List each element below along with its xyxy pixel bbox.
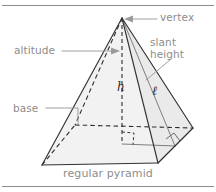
- label-base: base: [13, 103, 38, 115]
- figure-caption: regular pyramid: [0, 168, 216, 180]
- label-altitude: altitude: [14, 45, 55, 57]
- label-slant-height-line1: slant: [150, 36, 176, 48]
- label-slant-height: slantheight: [150, 37, 184, 60]
- label-vertex: vertex: [160, 12, 194, 24]
- geometry-figure-regular-pyramid: vertex altitude slantheight base regular…: [0, 0, 216, 192]
- pyramid-drawing: [0, 0, 216, 192]
- label-altitude-symbol: h: [117, 81, 125, 93]
- label-slant-height-line2: height: [150, 48, 184, 60]
- label-slant-height-symbol: ℓ: [152, 85, 157, 97]
- vertex-leader-arrowhead: [124, 16, 133, 23]
